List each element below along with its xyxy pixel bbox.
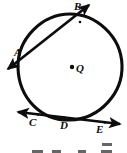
point-label-d: D (60, 120, 68, 131)
clipped-text-artifact (78, 150, 86, 153)
point-label-a: A (14, 47, 21, 58)
clipped-text-artifact (102, 143, 112, 146)
clipped-text-artifact (101, 150, 112, 153)
secant-line-ab (8, 5, 89, 69)
point-label-e: E (96, 124, 103, 135)
point-label-q: Q (76, 63, 84, 74)
point-label-c: C (29, 117, 36, 128)
center-point-dot (70, 65, 74, 69)
clipped-text-artifact (32, 150, 43, 153)
clipped-text-artifact (52, 150, 61, 153)
geometry-figure: A B Q C D E (0, 0, 127, 153)
point-label-b: B (74, 1, 81, 12)
